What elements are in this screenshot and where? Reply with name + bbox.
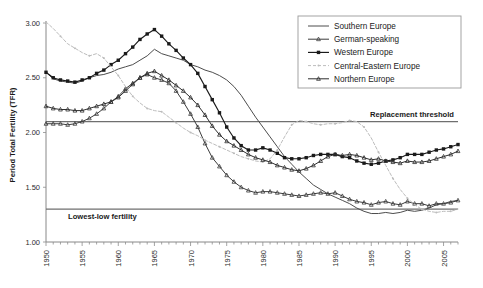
data-point xyxy=(189,63,192,66)
data-point xyxy=(413,153,416,156)
data-point xyxy=(44,71,47,74)
data-point xyxy=(74,47,76,49)
data-point xyxy=(247,148,250,151)
data-point xyxy=(427,151,430,154)
data-point xyxy=(161,111,163,113)
data-point xyxy=(276,152,279,155)
x-tick-label: 1950 xyxy=(42,250,51,267)
data-point xyxy=(450,210,452,212)
data-point xyxy=(52,76,55,79)
data-point xyxy=(442,147,445,150)
data-point xyxy=(196,72,199,75)
x-tick-label: 1965 xyxy=(150,250,159,267)
data-point xyxy=(146,107,148,109)
data-point xyxy=(276,149,278,151)
data-point xyxy=(320,124,322,126)
data-point xyxy=(153,28,156,31)
data-point xyxy=(317,51,320,54)
data-point xyxy=(59,35,61,37)
y-tick-label: 3.00 xyxy=(25,19,40,28)
data-point xyxy=(160,34,163,37)
y-tick-label: 1.00 xyxy=(25,238,40,247)
x-tick-label: 1970 xyxy=(187,250,196,267)
data-point xyxy=(233,152,235,154)
data-point xyxy=(377,151,379,153)
data-point xyxy=(204,139,206,141)
data-point xyxy=(355,159,358,162)
x-tick-label: 1955 xyxy=(78,250,87,267)
data-point xyxy=(203,85,206,88)
y-axis-title-text: Period Total Fertility (TFR) xyxy=(8,87,17,182)
data-point xyxy=(95,72,98,75)
data-point xyxy=(377,161,380,164)
y-tick-label: 1.50 xyxy=(25,183,40,192)
data-point xyxy=(420,153,423,156)
data-point xyxy=(254,148,257,151)
data-point xyxy=(363,126,365,128)
data-point xyxy=(88,55,90,57)
data-point xyxy=(73,80,76,83)
data-point xyxy=(435,211,437,213)
data-point xyxy=(167,42,170,45)
data-point xyxy=(211,98,214,101)
data-point xyxy=(261,146,264,149)
data-point xyxy=(66,79,69,82)
lowest-low-fertility-label: Lowest-low fertility xyxy=(68,212,138,221)
y-tick-label: 2.50 xyxy=(25,73,40,82)
data-point xyxy=(225,125,228,128)
data-point xyxy=(247,158,249,160)
data-point xyxy=(456,143,459,146)
data-point xyxy=(218,111,221,114)
legend-item-label: Southern Europe xyxy=(334,22,396,31)
data-point xyxy=(398,156,401,159)
chart-canvas: 1.001.502.002.503.00 1950195519601965197… xyxy=(0,0,483,288)
x-tick-label: 1985 xyxy=(295,250,304,267)
y-tick-label: 2.00 xyxy=(25,128,40,137)
data-point xyxy=(449,145,452,148)
legend-item-label: Western Europe xyxy=(334,48,393,57)
data-point xyxy=(362,161,365,164)
data-point xyxy=(59,78,62,81)
data-point xyxy=(392,177,394,179)
y-axis-title: Period Total Fertility (TFR) xyxy=(8,87,17,182)
data-point xyxy=(290,157,293,160)
data-point xyxy=(421,208,423,210)
x-tick-label: 2005 xyxy=(440,250,449,267)
data-point xyxy=(319,153,322,156)
data-point xyxy=(334,123,336,125)
data-point xyxy=(174,49,177,52)
data-point xyxy=(297,157,300,160)
x-tick-label: 1980 xyxy=(259,250,268,267)
data-point xyxy=(318,65,320,67)
data-point xyxy=(232,136,235,139)
x-tick-label: 1995 xyxy=(367,250,376,267)
data-point xyxy=(103,57,105,59)
data-point xyxy=(305,156,308,159)
data-point xyxy=(312,154,315,157)
data-point xyxy=(138,38,141,41)
data-point xyxy=(239,144,242,147)
data-point xyxy=(117,59,120,62)
data-point xyxy=(406,153,409,156)
data-point xyxy=(88,76,91,79)
chart-legend: Southern EuropeGerman-speakingWestern Eu… xyxy=(298,16,461,88)
legend-item-label: German-speaking xyxy=(334,35,400,44)
data-point xyxy=(283,156,286,159)
data-point xyxy=(291,124,293,126)
data-point xyxy=(124,52,127,55)
x-tick-label: 1990 xyxy=(331,250,340,267)
data-point xyxy=(218,146,220,148)
legend-item-label: Northern Europe xyxy=(334,75,395,84)
data-point xyxy=(145,32,148,35)
data-point xyxy=(370,163,373,166)
x-tick-label: 1960 xyxy=(114,250,123,267)
x-tick-label: 1975 xyxy=(223,250,232,267)
data-point xyxy=(305,121,307,123)
data-point xyxy=(80,78,83,81)
replacement-threshold-label: Replacement threshold xyxy=(370,110,454,119)
data-point xyxy=(435,148,438,151)
data-point xyxy=(175,122,177,124)
data-point xyxy=(132,95,134,97)
data-point xyxy=(182,56,185,59)
fertility-chart: 1.001.502.002.503.00 1950195519601965197… xyxy=(0,0,483,288)
